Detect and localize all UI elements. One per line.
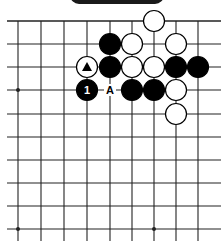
star-point	[16, 227, 20, 231]
star-point	[152, 227, 156, 231]
black-stone	[166, 57, 187, 78]
white-stone	[144, 11, 165, 32]
white-stone	[144, 57, 165, 78]
white-stone	[166, 104, 187, 125]
star-point	[16, 88, 20, 92]
white-stone	[77, 57, 98, 78]
white-stone	[122, 57, 143, 78]
white-stone	[166, 80, 187, 101]
black-stone	[122, 80, 143, 101]
go-board-diagram: A 1	[0, 0, 224, 247]
black-stone	[144, 80, 165, 101]
move-number: 1	[84, 84, 90, 96]
white-stone	[122, 34, 143, 55]
stones-layer: 1	[77, 11, 209, 125]
black-stone	[100, 57, 121, 78]
point-label-a: A	[106, 84, 114, 96]
white-stone	[166, 34, 187, 55]
point-labels: A	[104, 84, 116, 96]
black-stone	[100, 34, 121, 55]
black-stone: 1	[77, 80, 98, 101]
black-stone	[188, 57, 209, 78]
